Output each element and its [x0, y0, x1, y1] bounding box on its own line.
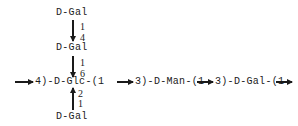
residue-top-gal: D-Gal	[56, 8, 88, 18]
linkage-arrows	[0, 0, 298, 126]
link-bottom-from: 1	[78, 99, 83, 109]
backbone-man: 3)-D-Man-(1	[135, 77, 204, 87]
backbone-glc: 4)-D-Glc-(1	[35, 77, 104, 87]
residue-middle-gal: D-Gal	[56, 43, 88, 53]
residue-bottom-gal: D-Gal	[56, 112, 88, 122]
backbone-gal: 3)-D-Gal-(1	[215, 77, 284, 87]
link-middle-from: 1	[80, 58, 85, 68]
link-top-from: 1	[80, 22, 85, 32]
